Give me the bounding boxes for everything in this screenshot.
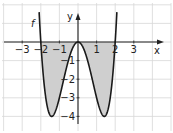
x-tick-label: −1 [52, 44, 67, 55]
y-tick-label: −4 [60, 111, 75, 122]
x-tick-label: −2 [33, 44, 48, 55]
x-tick-label: 3 [131, 44, 137, 55]
tick-labels: −3−2−1123−1−2−3−4 [15, 44, 137, 122]
x-tick-label: 1 [93, 44, 99, 55]
x-tick-label: 2 [112, 44, 118, 55]
y-tick-label: −2 [60, 74, 75, 85]
function-graph: −3−2−1123−1−2−3−4 f y x [0, 0, 173, 133]
axes [4, 13, 164, 124]
y-tick-label: −1 [60, 55, 75, 66]
y-tick-label: −3 [60, 92, 75, 103]
x-tick-label: −3 [15, 44, 30, 55]
y-axis-label: y [67, 11, 73, 22]
grid [2, 3, 171, 131]
x-axis-label: x [154, 45, 160, 56]
